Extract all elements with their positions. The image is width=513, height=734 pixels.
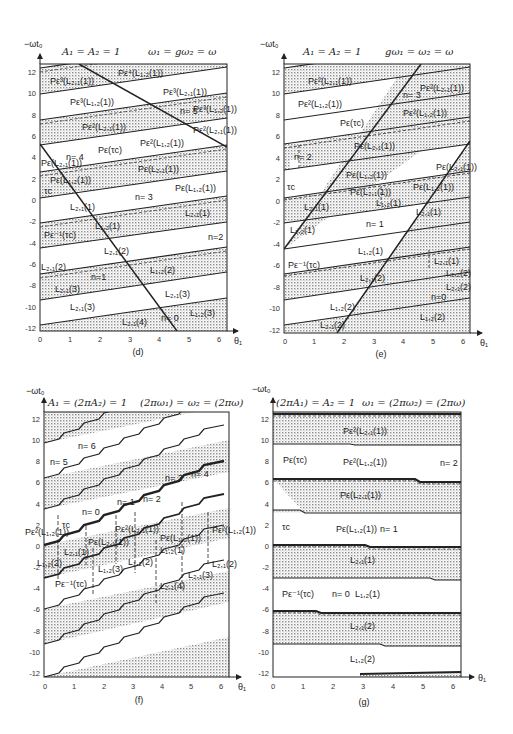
plot-area [273, 412, 461, 677]
svg-text:L₂,₁(1): L₂,₁(1) [185, 208, 210, 218]
panel-g: −ωt₀ (2πA₁) = A₂ = 1 ω₁ = (2πω₂) = (2πω) [252, 384, 486, 707]
y-ticks: 12 10 8 6 4 2 0 -2 -4 -6 -8 -10 -12 [25, 68, 36, 333]
svg-text:Pε(τc): Pε(τc) [340, 118, 364, 128]
svg-text:L₂,₁(2): L₂,₁(2) [104, 246, 129, 256]
svg-text:2: 2 [98, 335, 102, 344]
svg-text:L₁,₂(2): L₁,₂(2) [128, 557, 153, 567]
x-axis-label: θ₁ [238, 682, 246, 692]
svg-text:3: 3 [372, 337, 376, 346]
panel-caption: (d) [133, 347, 144, 357]
svg-text:n= 2: n= 2 [294, 152, 312, 162]
y-axis-label: −ωt₀ [260, 39, 279, 49]
svg-text:Pε⁻¹(τc): Pε⁻¹(τc) [288, 260, 320, 270]
svg-text:n= 2: n= 2 [143, 494, 161, 504]
svg-text:L₂,₁(2): L₂,₁(2) [360, 273, 385, 283]
svg-text:0: 0 [32, 196, 36, 205]
svg-text:10: 10 [32, 436, 40, 445]
svg-text:-8: -8 [262, 627, 269, 636]
svg-text:3: 3 [361, 682, 365, 691]
svg-text:8: 8 [32, 111, 36, 120]
svg-text:n= 0: n= 0 [161, 313, 179, 323]
svg-text:Pε(L₁,₂(1)): Pε(L₁,₂(1)) [413, 182, 454, 192]
y-ticks: 12 10 8 6 4 2 0 -2 -4 -6 -8 -10 -12 [29, 415, 40, 678]
svg-text:6: 6 [451, 682, 455, 691]
svg-text:Pε⁴(L₁,₂(1)): Pε⁴(L₁,₂(1)) [118, 68, 163, 78]
svg-text:n= 4: n= 4 [66, 152, 84, 162]
svg-text:-8: -8 [29, 281, 36, 290]
svg-text:-12: -12 [25, 324, 36, 333]
svg-text:0: 0 [43, 682, 47, 691]
svg-text:10: 10 [272, 89, 280, 98]
svg-text:L₂,₁(3): L₂,₁(3) [55, 284, 80, 294]
svg-text:τc: τc [287, 182, 296, 192]
x-axis-label: θ₁ [478, 673, 486, 683]
svg-text:n= 0: n= 0 [82, 507, 100, 517]
y-axis-label: −ωt₀ [252, 384, 271, 394]
svg-text:L₁,₂(3): L₁,₂(3) [190, 308, 215, 318]
svg-text:Pε(L₂,₁(1)): Pε(L₂,₁(1)) [354, 141, 395, 151]
svg-text:Pε²(L₁,₂(1)): Pε²(L₁,₂(1)) [140, 138, 184, 148]
svg-text:4: 4 [157, 335, 161, 344]
svg-text:Pε²(L₁,₂(1)): Pε²(L₁,₂(1)) [298, 99, 342, 109]
svg-text:L₂,₁(4): L₂,₁(4) [160, 581, 185, 591]
svg-text:L₁,₂(3): L₁,₂(3) [98, 564, 123, 574]
x-axis-label: θ₁ [234, 336, 242, 346]
svg-text:Pε(L₁,₂(1)): Pε(L₁,₂(1)) [160, 533, 201, 543]
svg-text:0: 0 [276, 197, 280, 206]
svg-text:-10: -10 [25, 303, 36, 312]
panel-d: −ωt₀ A₁ = A₂ = 1 ω₁ = gω₂ = ω [24, 39, 242, 357]
svg-text:L₂,₁(2): L₂,₁(2) [446, 282, 471, 292]
svg-text:-4: -4 [262, 584, 269, 593]
svg-text:4: 4 [32, 153, 36, 162]
svg-text:5: 5 [421, 682, 425, 691]
svg-text:-2: -2 [273, 218, 280, 227]
y-ticks: 12 10 8 6 4 2 0 -2 -4 -6 -8 -10 -12 [258, 415, 269, 678]
svg-text:5: 5 [189, 682, 193, 691]
svg-text:L₁,₂(2): L₁,₂(2) [330, 302, 355, 312]
svg-text:0: 0 [36, 542, 40, 551]
svg-text:12: 12 [32, 415, 40, 424]
svg-text:n= 3: n= 3 [135, 192, 153, 202]
svg-text:10: 10 [28, 89, 36, 98]
svg-text:2: 2 [32, 175, 36, 184]
svg-text:2: 2 [102, 682, 106, 691]
svg-text:L₁,₂(2): L₁,₂(2) [420, 312, 445, 322]
figure-canvas: −ωt₀ A₁ = A₂ = 1 ω₁ = gω₂ = ω [0, 0, 513, 734]
x-ticks: 0 1 2 3 4 5 6 [43, 682, 223, 691]
svg-text:n= 5: n= 5 [50, 457, 68, 467]
svg-text:Pε³(L₂,₁(1)): Pε³(L₂,₁(1)) [163, 87, 207, 97]
svg-text:Pε²(L₁,₂(1)): Pε²(L₁,₂(1)) [403, 108, 447, 118]
svg-text:Pε(L₂,₁(1)): Pε(L₂,₁(1)) [138, 164, 179, 174]
svg-text:L₂,₁(2): L₂,₁(2) [41, 262, 66, 272]
panel-title-left: (2πA₁) = A₂ = 1 [276, 397, 355, 408]
panel-f: −ωt₀ A₁ = (2πA₂) = 1 (2πω₁) = ω₂ = (2πω) [25, 359, 256, 705]
svg-text:-4: -4 [33, 584, 40, 593]
svg-text:n=1: n=1 [91, 272, 106, 282]
svg-text:L₁,₂(2): L₁,₂(2) [446, 268, 471, 278]
svg-text:L₂,₁(1): L₂,₁(1) [416, 207, 441, 217]
svg-text:Pε²(L₂,₁(1)): Pε²(L₂,₁(1)) [115, 524, 159, 534]
svg-text:n=0: n=0 [431, 292, 446, 302]
svg-text:L₂,₁(2): L₂,₁(2) [350, 621, 375, 631]
svg-text:L₁,₂(2): L₁,₂(2) [350, 654, 375, 664]
svg-text:L₂,₁(1): L₂,₁(1) [434, 256, 459, 266]
panel-e: −ωt₀ A₁ = A₂ = 1 gω₁ = ω₂ = ω [260, 39, 488, 359]
svg-text:τc: τc [44, 186, 53, 196]
x-axis-label: θ₁ [480, 338, 488, 348]
svg-text:n= 1: n= 1 [380, 524, 398, 534]
svg-text:L₁,₂(1): L₁,₂(1) [358, 246, 383, 256]
svg-text:1: 1 [301, 682, 305, 691]
svg-text:4: 4 [160, 682, 164, 691]
svg-text:-8: -8 [273, 283, 280, 292]
svg-text:0: 0 [38, 335, 42, 344]
svg-text:n= 3: n= 3 [165, 473, 183, 483]
x-ticks: 0 1 2 3 4 5 6 [271, 682, 455, 691]
panel-caption: (f) [135, 695, 144, 705]
svg-text:L₂,₁(1): L₂,₁(1) [64, 547, 89, 557]
svg-text:Pε(L₂,₁(1)): Pε(L₂,₁(1)) [340, 490, 381, 500]
svg-text:-2: -2 [29, 217, 36, 226]
svg-text:4: 4 [36, 500, 40, 509]
svg-text:n= 3: n= 3 [403, 90, 421, 100]
svg-text:n= 2: n= 2 [440, 458, 458, 468]
svg-text:n= 1: n= 1 [117, 497, 135, 507]
